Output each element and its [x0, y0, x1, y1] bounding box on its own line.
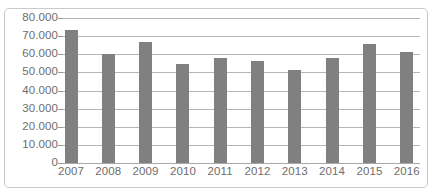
y-axis-tick-label: 40.000	[2, 85, 58, 97]
x-axis-tick-label: 2013	[276, 166, 314, 178]
bar	[288, 70, 301, 163]
axis-baseline	[62, 163, 420, 164]
x-axis-tick-label: 2014	[313, 166, 351, 178]
y-axis-tick-label: 20.000	[2, 121, 58, 133]
x-axis-tick-label: 2008	[89, 166, 127, 178]
y-axis-tick-label: 30.000	[2, 103, 58, 115]
x-axis-tick-label: 2016	[388, 166, 426, 178]
y-axis-tick-label: 70.000	[2, 30, 58, 42]
bar	[363, 44, 376, 163]
y-axis-tick-label: 50.000	[2, 66, 58, 78]
y-axis-tick-mark	[58, 145, 63, 146]
y-axis-tick-mark	[58, 109, 63, 110]
x-axis-tick-label: 2011	[201, 166, 239, 178]
y-axis-tick-label: 80.000	[2, 12, 58, 24]
bar	[214, 58, 227, 163]
y-axis-tick-mark	[58, 54, 63, 55]
x-axis-tick-label: 2007	[52, 166, 90, 178]
y-axis-tick-label: 10.000	[2, 139, 58, 151]
bar	[400, 52, 413, 163]
bar	[139, 42, 152, 163]
x-axis-tick-label: 2015	[350, 166, 388, 178]
gridline	[62, 18, 420, 19]
y-axis-tick-label: 60.000	[2, 48, 58, 60]
x-axis-tick-label: 2009	[127, 166, 165, 178]
bar-chart: 010.00020.00030.00040.00050.00060.00070.…	[0, 0, 434, 195]
y-axis-tick-mark	[58, 36, 63, 37]
bar	[102, 54, 115, 163]
bar	[251, 61, 264, 163]
y-axis-tick-mark	[58, 163, 63, 164]
bar	[65, 30, 78, 163]
y-axis-tick-label: 0	[2, 157, 58, 169]
y-axis-tick-mark	[58, 72, 63, 73]
x-axis-tick-label: 2010	[164, 166, 202, 178]
bar	[326, 58, 339, 163]
x-axis-tick-label: 2012	[239, 166, 277, 178]
y-axis-tick-mark	[58, 91, 63, 92]
bar	[176, 64, 189, 163]
gridline	[62, 36, 420, 37]
y-axis-tick-mark	[58, 18, 63, 19]
y-axis-tick-mark	[58, 127, 63, 128]
